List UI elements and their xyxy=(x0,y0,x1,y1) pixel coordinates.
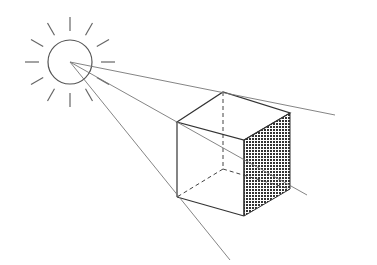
diagram-canvas xyxy=(0,0,377,265)
sun-cube-diagram xyxy=(0,0,377,265)
shaded-face xyxy=(244,113,290,216)
light-rays xyxy=(70,62,335,260)
